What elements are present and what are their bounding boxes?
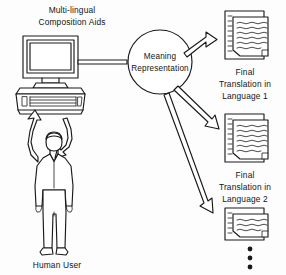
meaning-to-lang2-arrow bbox=[174, 86, 219, 129]
lang2-caption-line2: Translation in bbox=[219, 182, 271, 192]
document-stack-icon-lang2 bbox=[225, 114, 268, 162]
meaning-to-lang1-arrow bbox=[184, 32, 217, 57]
user-to-computer-arrow bbox=[28, 110, 41, 162]
meaning-representation-node: Meaning Representation bbox=[128, 30, 192, 94]
lang1-caption-line2: Translation in bbox=[219, 79, 271, 89]
standing-person-icon bbox=[35, 132, 73, 255]
workstation-caption-line2: Composition Aids bbox=[38, 17, 105, 27]
meaning-to-langn-arrow bbox=[164, 93, 213, 213]
meaning-label-line2: Representation bbox=[131, 64, 189, 73]
document-stack-icon-langn bbox=[225, 208, 268, 240]
lang2-caption-line3: Language 2 bbox=[222, 194, 268, 204]
user-caption: Human User bbox=[33, 260, 82, 270]
diagram-canvas: Multi-lingual Composition Aids bbox=[0, 0, 286, 275]
meaning-label-line1: Meaning bbox=[144, 52, 177, 61]
lang2-caption-line1: Final bbox=[236, 170, 255, 180]
computer-to-meaning-link bbox=[78, 60, 127, 64]
document-stack-icon-lang1 bbox=[225, 11, 268, 59]
desktop-computer-icon bbox=[16, 36, 85, 114]
lang1-caption-line3: Language 1 bbox=[222, 91, 268, 101]
figure-root: Multi-lingual Composition Aids bbox=[0, 0, 286, 275]
lang1-caption-line1: Final bbox=[236, 67, 255, 77]
workstation-caption-line1: Multi-lingual bbox=[49, 5, 96, 15]
vertical-ellipsis bbox=[248, 247, 253, 270]
